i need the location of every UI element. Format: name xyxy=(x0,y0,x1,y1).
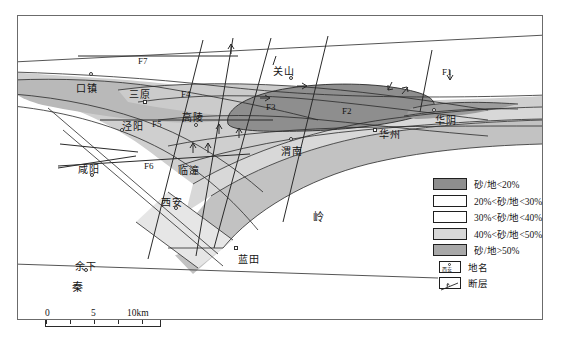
legend-row-40-50: 40%<砂/地<50% xyxy=(433,226,551,243)
fault-label-F2: F2 xyxy=(342,106,352,116)
legend-label-40-50: 40%<砂/地<50% xyxy=(474,227,542,241)
place-label-lintong: 临潼 xyxy=(178,162,199,177)
legend-label-30-40: 30%<砂/地<40% xyxy=(474,210,542,224)
place-label-xianyang: 咸阳 xyxy=(78,161,99,176)
legend-swatch-20-30 xyxy=(433,195,467,207)
place-marker-icon xyxy=(448,263,451,266)
legend-row-fault: 断层 xyxy=(433,275,551,292)
place-marker-weinan xyxy=(289,137,293,141)
place-label-kouzhen: 口镇 xyxy=(76,80,97,95)
figure-root: 口镇 三原 泾阳 高陵 关山 咸阳 临潼 西安 渭南 华州 华阴 蓝田 xyxy=(0,0,561,337)
place-marker-sanyuan xyxy=(143,100,147,104)
fault-label-F6: F6 xyxy=(144,161,154,171)
figure-frame: 口镇 三原 泾阳 高陵 关山 咸阳 临潼 西安 渭南 华州 华阴 蓝田 xyxy=(17,15,543,320)
fault-label-F7: F7 xyxy=(138,56,148,66)
legend-row-gt50: 砂/地>50% xyxy=(433,242,551,259)
fault-label-F5: F5 xyxy=(152,119,162,129)
legend: 砂/地<20% 20%<砂/地<30% 30%<砂/地<40% 40%<砂/地<… xyxy=(433,176,551,292)
legend-label-fault: 断层 xyxy=(468,276,488,290)
place-marker-lantian xyxy=(234,246,238,250)
place-label-huayin: 华阴 xyxy=(435,112,456,127)
scale-bar: 0 5 10km xyxy=(45,308,165,327)
fault-label-F1: F1 xyxy=(442,67,452,77)
place-label-lantian: 蓝田 xyxy=(238,251,259,266)
legend-label-gt50: 砂/地>50% xyxy=(474,243,519,257)
scale-bar-track xyxy=(45,320,161,327)
legend-row-placename: 西安 地名 xyxy=(433,259,551,276)
place-name-symbol-icon: 西安 xyxy=(439,261,461,273)
scale-tick-5: 5 xyxy=(91,308,96,318)
place-label-gaoling: 高陵 xyxy=(182,109,203,124)
scale-tick-10km: 10km xyxy=(127,308,149,318)
place-label-jingyang: 泾阳 xyxy=(122,118,143,133)
place-label-huazhou: 华州 xyxy=(379,126,400,141)
place-marker-kouzhen xyxy=(89,72,93,76)
place-marker-guanshan xyxy=(289,76,293,80)
legend-row-30-40: 30%<砂/地<40% xyxy=(433,209,551,226)
scale-tick-0: 0 xyxy=(45,308,50,318)
place-marker-yuxia xyxy=(84,268,88,272)
scale-bar-labels: 0 5 10km xyxy=(45,308,165,320)
place-marker-jingyang xyxy=(120,128,124,132)
fault-glyph-icon xyxy=(440,282,460,292)
range-label-ling: 岭 xyxy=(313,208,325,224)
legend-swatch-40-50 xyxy=(433,228,467,240)
legend-swatch-30-40 xyxy=(433,211,467,223)
place-marker-xianyang xyxy=(90,173,94,177)
legend-row-20-30: 20%<砂/地<30% xyxy=(433,193,551,210)
legend-swatch-lt20 xyxy=(433,178,467,190)
place-marker-xian xyxy=(174,206,178,210)
legend-row-lt20: 砂/地<20% xyxy=(433,176,551,193)
place-marker-huayin xyxy=(432,108,436,112)
place-label-xian: 西安 xyxy=(161,194,182,209)
legend-label-20-30: 20%<砂/地<30% xyxy=(474,194,542,208)
place-label-sanyuan: 三原 xyxy=(129,86,150,101)
fault-label-F3: F3 xyxy=(266,102,276,112)
range-label-qin: 秦 xyxy=(72,278,84,294)
fault-symbol-icon xyxy=(439,277,461,289)
place-marker-gaoling xyxy=(194,123,198,127)
fault-label-F4: F4 xyxy=(181,89,191,99)
legend-label-placename: 地名 xyxy=(468,260,488,274)
legend-label-lt20: 砂/地<20% xyxy=(474,177,519,191)
place-marker-huazhou xyxy=(373,128,377,132)
legend-swatch-gt50 xyxy=(433,244,467,256)
place-label-weinan: 渭南 xyxy=(281,143,302,158)
place-marker-lintong xyxy=(190,170,194,174)
place-symbol-text: 西安 xyxy=(442,267,452,272)
